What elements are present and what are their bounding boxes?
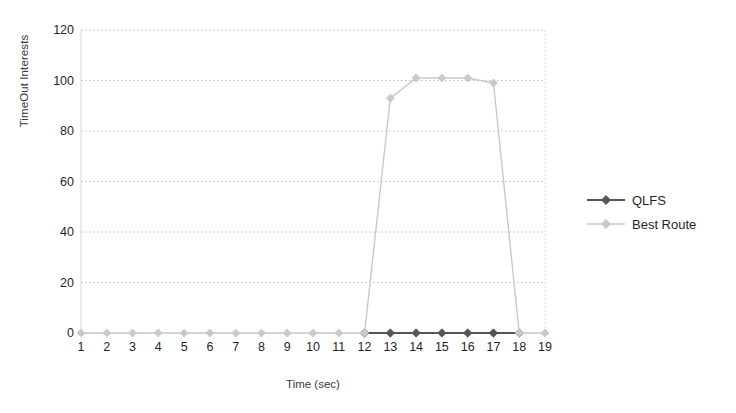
legend-marker-icon (586, 216, 626, 232)
data-point-marker (489, 79, 497, 87)
x-tick-label-19: 19 (530, 340, 560, 354)
data-series-layer (77, 74, 549, 337)
chart-legend: QLFSBest Route (586, 188, 731, 236)
data-point-marker (309, 329, 317, 337)
y-tick-label-20: 20 (32, 276, 74, 290)
data-point-marker (489, 329, 497, 337)
y-tick-label-80: 80 (32, 124, 74, 138)
series-best-route (77, 74, 549, 337)
y-axis-tick-labels: 020406080100120 (24, 30, 74, 333)
data-point-marker (103, 329, 111, 337)
data-point-marker (232, 329, 240, 337)
data-point-marker (154, 329, 162, 337)
data-point-marker (541, 329, 549, 337)
data-point-marker (335, 329, 343, 337)
legend-marker-icon (586, 192, 626, 208)
data-point-marker (129, 329, 137, 337)
data-point-marker (438, 74, 446, 82)
data-point-marker (257, 329, 265, 337)
data-point-marker (361, 329, 369, 337)
legend-item-qlfs[interactable]: QLFS (586, 188, 731, 212)
x-axis-title: Time (sec) (93, 378, 533, 390)
chart-container: TimeOut Interests 020406080100120 123456… (0, 0, 736, 413)
data-point-marker (463, 329, 471, 337)
gridlines (81, 30, 545, 333)
y-tick-label-60: 60 (32, 175, 74, 189)
data-point-marker (283, 329, 291, 337)
y-tick-label-100: 100 (32, 74, 74, 88)
y-tick-label-40: 40 (32, 225, 74, 239)
data-point-marker (412, 329, 420, 337)
legend-label: Best Route (632, 217, 696, 232)
series-line (81, 78, 545, 333)
data-point-marker (386, 329, 394, 337)
legend-item-best-route[interactable]: Best Route (586, 212, 731, 236)
series-qlfs (360, 329, 523, 337)
data-point-marker (515, 329, 523, 337)
x-axis-tick-labels: 12345678910111213141516171819 (81, 340, 545, 360)
plot-area (81, 30, 545, 333)
legend-label: QLFS (632, 193, 666, 208)
data-point-marker (180, 329, 188, 337)
plot-svg (81, 30, 545, 333)
data-point-marker (77, 329, 85, 337)
y-tick-label-120: 120 (32, 23, 74, 37)
data-point-marker (206, 329, 214, 337)
data-point-marker (438, 329, 446, 337)
y-tick-label-0: 0 (32, 326, 74, 340)
